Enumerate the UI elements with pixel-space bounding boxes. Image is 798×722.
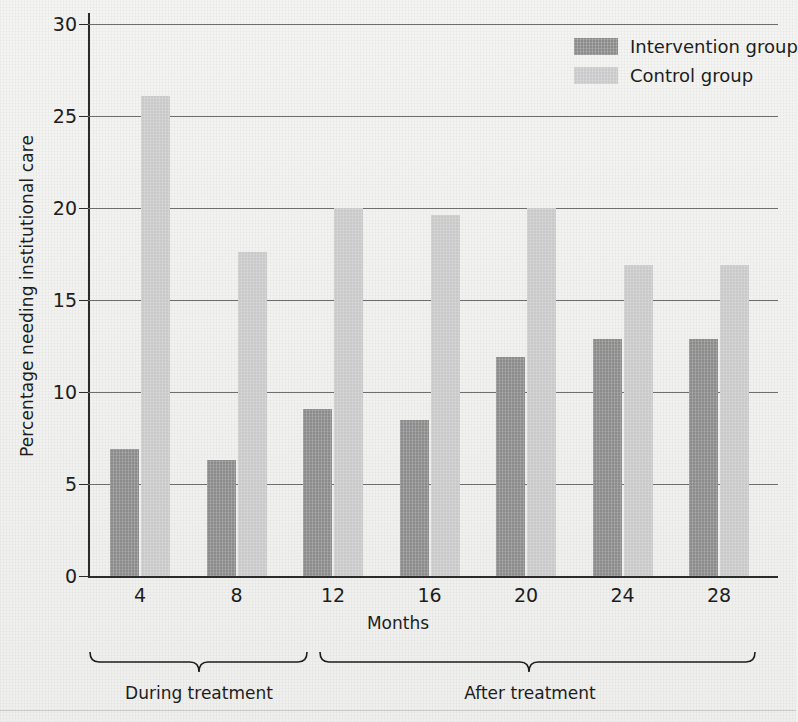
legend-label-intervention: Intervention group <box>630 36 798 57</box>
legend-label-control: Control group <box>630 65 753 86</box>
x-tick-label-20: 20 <box>514 584 538 606</box>
bar-group-4 <box>110 13 170 576</box>
legend-item-control: Control group <box>574 63 798 87</box>
brace-svg <box>0 648 796 688</box>
x-axis-title: Months <box>0 613 796 633</box>
bar-group-20 <box>496 13 556 576</box>
bar-intervention-16[interactable] <box>400 420 429 576</box>
brace-label-during: During treatment <box>125 683 273 703</box>
bar-control-20[interactable] <box>527 208 556 576</box>
control-swatch-icon <box>574 67 618 84</box>
x-tick-label-8: 8 <box>230 584 242 606</box>
y-tick-label-30: 30 <box>53 13 77 35</box>
bar-control-16[interactable] <box>431 215 460 576</box>
plot-area: 051015202530 <box>88 13 778 578</box>
bar-control-4[interactable] <box>141 96 170 576</box>
bar-intervention-28[interactable] <box>689 339 718 576</box>
x-tick-label-16: 16 <box>417 584 441 606</box>
y-tick-20 <box>79 208 88 209</box>
bar-intervention-4[interactable] <box>110 449 139 576</box>
bar-intervention-12[interactable] <box>303 409 332 576</box>
intervention-swatch-icon <box>574 38 618 55</box>
y-axis-title: Percentage needing institutional care <box>14 13 40 578</box>
y-tick-label-20: 20 <box>53 197 77 219</box>
brace-after-icon <box>320 652 755 672</box>
bar-intervention-8[interactable] <box>207 460 236 576</box>
bars-layer <box>88 13 778 576</box>
brace-during-icon <box>90 652 307 672</box>
y-tick-15 <box>79 300 88 301</box>
y-tick-5 <box>79 484 88 485</box>
brace-label-after: After treatment <box>464 683 596 703</box>
bar-group-24 <box>593 13 653 576</box>
y-tick-label-25: 25 <box>53 105 77 127</box>
bar-intervention-24[interactable] <box>593 339 622 576</box>
bar-group-8 <box>207 13 267 576</box>
bar-control-8[interactable] <box>238 252 267 576</box>
y-tick-label-0: 0 <box>65 565 77 587</box>
legend: Intervention group Control group <box>574 34 798 92</box>
bar-control-24[interactable] <box>624 265 653 576</box>
y-tick-10 <box>79 392 88 393</box>
y-tick-label-5: 5 <box>65 473 77 495</box>
bar-control-12[interactable] <box>334 208 363 576</box>
bottom-divider <box>0 710 796 711</box>
y-tick-label-15: 15 <box>53 289 77 311</box>
y-tick-label-10: 10 <box>53 381 77 403</box>
legend-item-intervention: Intervention group <box>574 34 798 58</box>
bar-group-28 <box>689 13 749 576</box>
bar-intervention-20[interactable] <box>496 357 525 576</box>
bar-group-16 <box>400 13 460 576</box>
y-tick-30 <box>79 24 88 25</box>
y-axis-title-text: Percentage needing institutional care <box>17 134 37 456</box>
x-tick-label-12: 12 <box>321 584 345 606</box>
x-tick-label-4: 4 <box>134 584 146 606</box>
bar-group-12 <box>303 13 363 576</box>
y-tick-0 <box>79 576 88 577</box>
y-tick-25 <box>79 116 88 117</box>
bar-control-28[interactable] <box>720 265 749 576</box>
x-tick-label-28: 28 <box>707 584 731 606</box>
x-tick-label-24: 24 <box>610 584 634 606</box>
